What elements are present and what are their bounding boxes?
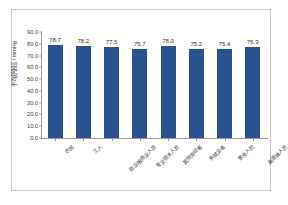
y-axis-tick-mark xyxy=(39,55,42,56)
bar-value-label: 78.7 xyxy=(49,37,61,43)
bar[interactable]: 76.9 xyxy=(245,47,260,138)
x-axis-tick-mark xyxy=(140,138,141,141)
plot-area: 78.778.277.575.778.075.275.476.9 xyxy=(41,32,267,138)
bar-value-label: 78.2 xyxy=(78,38,90,44)
bar[interactable]: 78.2 xyxy=(76,46,91,138)
bar[interactable]: 75.4 xyxy=(217,49,232,138)
y-axis-tick-label: 40.0 xyxy=(27,88,38,94)
y-axis-tick-mark xyxy=(39,43,42,44)
x-axis-tick-mark xyxy=(168,138,169,141)
bar-value-label: 78.0 xyxy=(162,38,174,44)
bar[interactable]: 78.0 xyxy=(161,46,176,138)
bar-value-label: 75.2 xyxy=(191,41,203,47)
x-axis-tick-mark xyxy=(83,138,84,141)
x-axis-tick-mark xyxy=(225,138,226,141)
bar-value-label: 75.7 xyxy=(134,41,146,47)
y-axis-tick-mark xyxy=(39,32,42,33)
bar-value-label: 76.9 xyxy=(247,39,259,45)
bar-value-label: 75.4 xyxy=(219,41,231,47)
y-axis-tick-label: 80.0 xyxy=(27,41,38,47)
x-axis-tick-mark xyxy=(55,138,56,141)
y-axis-tick-mark xyxy=(39,102,42,103)
y-axis-tick-label: 60.0 xyxy=(27,64,38,70)
x-axis-tick-mark xyxy=(112,138,113,141)
y-axis-tick-mark xyxy=(39,114,42,115)
bar[interactable]: 78.7 xyxy=(48,45,63,138)
y-axis-tick-label: 70.0 xyxy=(27,53,38,59)
y-axis-tick-label: 30.0 xyxy=(27,100,38,106)
bar[interactable]: 75.2 xyxy=(189,49,204,138)
bar-value-label: 77.5 xyxy=(106,39,118,45)
y-axis-title: 平均舒张压 / mmHg xyxy=(10,14,18,114)
y-axis-tick-mark xyxy=(39,67,42,68)
chart-figure: 平均舒张压 / mmHg 78.778.277.575.778.075.275.… xyxy=(0,0,285,205)
y-axis-tick-mark xyxy=(39,79,42,80)
x-axis-tick-mark xyxy=(253,138,254,141)
y-axis-tick-label: 50.0 xyxy=(27,76,38,82)
x-axis-tick-mark xyxy=(196,138,197,141)
y-axis-tick-mark xyxy=(39,126,42,127)
y-axis-tick-label: 0.0 xyxy=(30,135,38,141)
y-axis-tick-mark xyxy=(39,138,42,139)
x-axis-line xyxy=(41,138,268,139)
bar[interactable]: 77.5 xyxy=(104,47,119,138)
bar[interactable]: 75.7 xyxy=(132,49,147,138)
y-axis-tick-mark xyxy=(39,90,42,91)
y-axis-tick-label: 10.0 xyxy=(27,123,38,129)
y-axis-tick-label: 20.0 xyxy=(27,111,38,117)
y-axis-tick-label: 90.0 xyxy=(27,29,38,35)
